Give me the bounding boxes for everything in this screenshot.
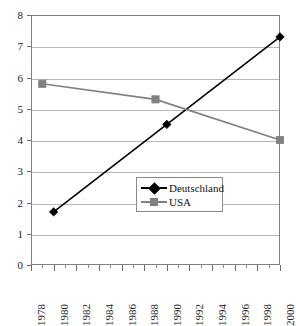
x-tick-major: [167, 265, 168, 271]
x-tick-label: 1996: [240, 304, 251, 326]
gridline: [32, 110, 279, 111]
gridline: [32, 47, 279, 48]
square-marker-icon: [150, 198, 158, 206]
x-tick-minor: [65, 265, 66, 268]
legend-item-usa: USA: [141, 195, 218, 209]
gridline: [32, 172, 279, 173]
gridline: [32, 141, 279, 142]
x-tick-minor: [110, 265, 111, 268]
legend-swatch-usa: [141, 196, 167, 208]
x-tick-minor: [88, 265, 89, 268]
x-tick-label: 1992: [194, 304, 205, 326]
x-tick-label: 1988: [149, 304, 160, 326]
x-tick-label: 2000: [285, 304, 296, 326]
gridline: [32, 235, 279, 236]
y-tick-label: 1: [18, 228, 24, 239]
y-tick-label: 5: [18, 103, 24, 114]
y-tick-label: 8: [18, 10, 24, 21]
x-tick-major: [280, 265, 281, 271]
legend-item-deutschland: Deutschland: [141, 181, 218, 195]
x-tick-major: [54, 265, 55, 271]
x-tick-minor: [42, 265, 43, 268]
y-tick-label: 4: [18, 135, 24, 146]
legend-label-usa: USA: [169, 196, 191, 208]
x-tick-major: [235, 265, 236, 271]
y-tick-mark: [27, 234, 31, 235]
y-tick-mark: [27, 140, 31, 141]
x-tick-major: [99, 265, 100, 271]
x-tick-minor: [156, 265, 157, 268]
x-tick-minor: [246, 265, 247, 268]
y-tick-mark: [27, 46, 31, 47]
x-tick-label: 1982: [81, 304, 92, 326]
y-tick-label: 0: [18, 260, 24, 271]
x-tick-major: [189, 265, 190, 271]
y-tick-label: 2: [18, 197, 24, 208]
y-tick-mark: [27, 171, 31, 172]
x-tick-minor: [133, 265, 134, 268]
x-tick-major: [144, 265, 145, 271]
legend: Deutschland USA: [136, 177, 223, 212]
x-tick-major: [76, 265, 77, 271]
y-tick-label: 7: [18, 41, 24, 52]
x-tick-minor: [269, 265, 270, 268]
y-tick-label: 6: [18, 72, 24, 83]
x-tick-label: 1986: [127, 304, 138, 326]
x-tick-minor: [178, 265, 179, 268]
x-tick-major: [257, 265, 258, 271]
x-tick-major: [31, 265, 32, 271]
diamond-marker-icon: [148, 182, 161, 195]
y-tick-mark: [27, 78, 31, 79]
x-tick-minor: [223, 265, 224, 268]
x-tick-label: 1980: [59, 304, 70, 326]
x-tick-major: [212, 265, 213, 271]
legend-swatch-deutschland: [141, 182, 167, 194]
y-tick-mark: [27, 203, 31, 204]
x-tick-label: 1984: [104, 304, 115, 326]
plot-area: [31, 15, 280, 265]
y-tick-label: 3: [18, 166, 24, 177]
x-tick-minor: [201, 265, 202, 268]
x-tick-major: [122, 265, 123, 271]
x-tick-label: 1998: [262, 304, 273, 326]
y-tick-mark: [27, 15, 31, 16]
x-tick-label: 1994: [217, 304, 228, 326]
y-tick-mark: [27, 109, 31, 110]
gridline: [32, 79, 279, 80]
y-axis: 012345678: [0, 0, 31, 310]
x-tick-label: 1990: [172, 304, 183, 326]
x-tick-label: 1978: [36, 304, 47, 326]
x-axis: 1978198019821984198619881990199219941996…: [31, 272, 280, 310]
legend-label-deutschland: Deutschland: [169, 182, 224, 194]
